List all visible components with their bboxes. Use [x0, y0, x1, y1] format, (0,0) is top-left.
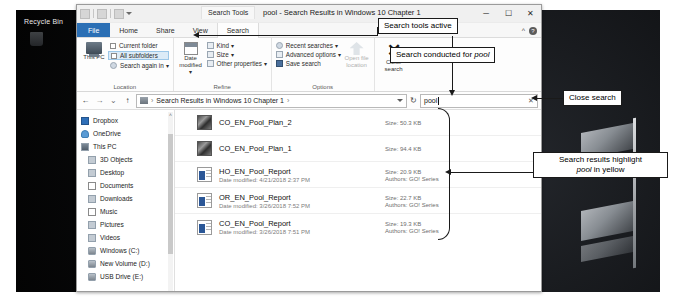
save-icon — [276, 60, 283, 67]
search-input[interactable]: pool ✕ — [420, 94, 538, 108]
table-row[interactable]: OR_EN_Pool_Report Date modified: 3/26/20… — [175, 188, 541, 214]
nav-label: Videos — [100, 234, 120, 241]
window-body: Dropbox OneDrive This PC 3D Objects Desk… — [77, 110, 541, 291]
back-button[interactable]: ← — [80, 96, 91, 105]
file-date-modified: Date modified: 4/21/2018 2:37 PM — [219, 177, 310, 183]
drive-icon — [88, 260, 96, 268]
folder-icon — [140, 97, 148, 104]
scrollbar-thumb[interactable] — [168, 134, 173, 254]
nav-item-music[interactable]: Music — [81, 205, 174, 218]
ribbon-help-controls: ^ ? — [522, 23, 537, 38]
recent-searches-icon — [276, 42, 283, 49]
tab-share[interactable]: Share — [147, 23, 184, 37]
nav-item-3d-objects[interactable]: 3D Objects — [81, 153, 174, 166]
date-modified-button[interactable]: Date modified ▾ — [178, 40, 204, 76]
close-button[interactable]: ✕ — [519, 5, 541, 23]
help-icon[interactable]: ? — [529, 27, 537, 35]
date-modified-label: Date modified ▾ — [178, 55, 204, 76]
other-properties-label: Other properties ▾ — [217, 60, 267, 67]
image-file-icon — [197, 141, 212, 156]
advanced-options-menu[interactable]: Advanced options ▾ — [276, 51, 341, 58]
table-row[interactable]: HO_EN_Pool_Report Date modified: 4/21/20… — [175, 162, 541, 188]
callout-text-prefix: Search conducted for — [396, 50, 474, 59]
recent-locations-button[interactable]: ⌄ — [108, 96, 119, 105]
nav-item-documents[interactable]: Documents — [81, 179, 174, 192]
nav-item-usb-drive-e[interactable]: USB Drive (E:) — [81, 270, 174, 283]
file-authors: Authors: GO! Series — [385, 228, 439, 234]
nav-item-windows-c[interactable]: Windows (C:) — [81, 244, 174, 257]
recycle-bin-label[interactable]: Recycle Bin — [24, 18, 63, 25]
nav-label: USB Drive (E:) — [100, 273, 143, 280]
size-label: Size ▾ — [217, 51, 234, 58]
drive-icon — [88, 247, 96, 255]
new-folder-icon[interactable] — [114, 9, 124, 19]
nav-item-onedrive[interactable]: OneDrive — [81, 127, 174, 140]
ribbon-group-close-search: ✕ Close search — [375, 38, 413, 91]
window-controls: ─ ☐ ✕ — [475, 5, 541, 23]
nav-label: Windows (C:) — [100, 247, 140, 254]
nav-item-this-pc[interactable]: This PC — [81, 140, 174, 153]
recent-searches-label: Recent searches ▾ — [286, 42, 338, 49]
nav-item-downloads[interactable]: Downloads — [81, 192, 174, 205]
search-again-in-menu[interactable]: Search again in ▾ — [110, 62, 169, 69]
nav-label: Dropbox — [93, 117, 118, 124]
scroll-up-icon[interactable]: ˄ — [168, 112, 173, 118]
callout-leader-line — [199, 35, 378, 36]
advanced-options-icon — [276, 51, 283, 58]
refresh-icon[interactable]: ↻ — [410, 96, 417, 105]
callout-text-line2: in yellow — [592, 165, 625, 174]
title-bar: Search Tools pool - Search Results in Wi… — [77, 5, 541, 23]
save-search-button[interactable]: Save search — [276, 60, 341, 67]
other-properties-menu[interactable]: Other properties ▾ — [207, 60, 267, 67]
current-folder-checkbox[interactable]: Current folder — [110, 42, 169, 49]
properties-icon[interactable] — [97, 9, 107, 19]
callout-arrow — [445, 169, 451, 175]
callout-text-term: pool — [474, 50, 489, 59]
recycle-bin-icon[interactable] — [30, 32, 43, 46]
divider — [93, 9, 94, 18]
collapse-ribbon-icon[interactable]: ^ — [522, 27, 525, 34]
pictures-icon — [88, 221, 96, 229]
size-menu[interactable]: Size ▾ — [207, 51, 267, 58]
up-button[interactable]: ↑ — [122, 96, 133, 105]
quick-access-toolbar[interactable] — [77, 9, 132, 19]
recent-searches-menu[interactable]: Recent searches ▾ — [276, 42, 341, 49]
nav-item-pictures[interactable]: Pictures — [81, 218, 174, 231]
minimize-button[interactable]: ─ — [475, 5, 497, 23]
all-subfolders-label: All subfolders — [120, 52, 158, 59]
contextual-tab-search-tools: Search Tools — [201, 6, 255, 19]
this-pc-icon — [81, 143, 89, 151]
nav-item-dropbox[interactable]: Dropbox — [81, 114, 174, 127]
nav-item-new-volume-d[interactable]: New Volume (D:) — [81, 257, 174, 270]
nav-item-desktop[interactable]: Desktop — [81, 166, 174, 179]
window-title: pool - Search Results in Windows 10 Chap… — [263, 8, 421, 17]
address-bar[interactable]: › Search Results in Windows 10 Chapter 1… — [136, 94, 407, 108]
callout-text-line1: Search results highlight — [559, 155, 642, 164]
current-folder-label: Current folder — [119, 42, 158, 49]
chevron-down-icon[interactable] — [126, 12, 132, 15]
kind-menu[interactable]: Kind ▾ — [207, 42, 267, 49]
explorer-icon — [80, 9, 90, 19]
file-size: Size: 20.9 KB — [385, 168, 439, 174]
group-label-location: Location — [81, 84, 169, 91]
table-row[interactable]: CO_EN_Pool_Plan_1 Size: 94.4 KB — [175, 136, 541, 162]
group-label-refine: Refine — [178, 84, 267, 91]
callout-arrow — [449, 90, 455, 96]
tab-home[interactable]: Home — [110, 23, 147, 37]
forward-button[interactable]: → — [94, 96, 105, 105]
this-pc-button[interactable]: This PC — [81, 40, 107, 61]
callout-arrow — [193, 32, 199, 38]
maximize-button[interactable]: ☐ — [497, 5, 519, 23]
open-file-location-button: Open file location — [344, 40, 370, 69]
table-row[interactable]: CO_EN_Pool_Report Date modified: 3/26/20… — [175, 214, 541, 240]
table-row[interactable]: CO_EN_Pool_Plan_2 Size: 50.3 KB — [175, 110, 541, 136]
chevron-down-icon[interactable] — [397, 99, 403, 102]
nav-label: Music — [100, 208, 117, 215]
documents-icon — [88, 182, 96, 190]
tab-file[interactable]: File — [77, 23, 110, 37]
address-path-text: Search Results in Windows 10 Chapter 1 — [156, 97, 284, 104]
nav-item-videos[interactable]: Videos — [81, 231, 174, 244]
all-subfolders-checkbox[interactable]: All subfolders — [108, 51, 169, 60]
callout-text-term: pool — [576, 165, 591, 174]
nav-pane-scrollbar[interactable]: ˄ — [168, 112, 173, 291]
